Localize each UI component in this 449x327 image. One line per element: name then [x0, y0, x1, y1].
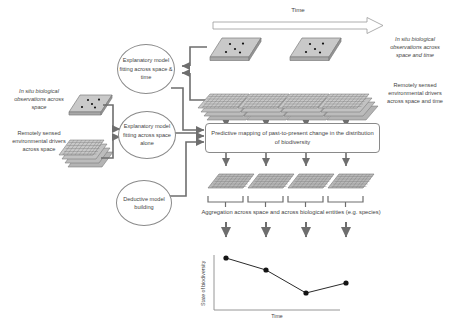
driver-stack-4: [318, 94, 378, 120]
label-remote-drivers-space-time: Remotely sensed environmental drivers ac…: [382, 82, 448, 106]
connector-ellipse-top-to-box: [171, 88, 204, 130]
dot-plate-t1: [210, 38, 261, 61]
predictive-to-output-arrows: [226, 152, 346, 166]
time-axis-arrow: [213, 18, 383, 34]
label-remote-drivers-space: Remotely sensed environmental drivers ac…: [8, 130, 70, 154]
connector-top-bracket: [182, 47, 207, 100]
aggregation-to-chart-arrows: [226, 222, 346, 237]
time-axis-label: Time: [248, 6, 348, 13]
predictive-mapping-label: Predictive mapping of past-to-present ch…: [206, 129, 379, 147]
output-grid-1: [208, 174, 254, 188]
process-label: Deductive model building: [117, 195, 171, 212]
process-explanatory-model-space-time[interactable]: Explanatory model fitting across space &…: [117, 44, 175, 94]
chart-y-axis-label: State of biodiversity: [200, 258, 212, 308]
dot-plate-t2: [290, 38, 341, 61]
process-explanatory-model-space-alone[interactable]: Explanatory model fitting across space a…: [118, 111, 176, 159]
aggregation-braces: [208, 196, 363, 207]
predictive-mapping-box[interactable]: Predictive mapping of past-to-present ch…: [205, 123, 380, 153]
output-grid-4: [328, 174, 374, 188]
biodiversity-trend-chart: [214, 255, 349, 310]
process-label: Explanatory model fitting across space a…: [119, 122, 175, 147]
conceptual-diagram: Time In situ biological observations acr…: [0, 0, 449, 327]
output-grid-3: [288, 174, 334, 188]
chart-x-axis-label: Time: [252, 313, 302, 319]
process-label: Explanatory model fitting across space &…: [118, 56, 174, 81]
connector-ellipse-deductive-to-box: [168, 142, 204, 196]
output-grid-2: [248, 174, 294, 188]
process-deductive-model-building[interactable]: Deductive model building: [116, 180, 172, 226]
connector-ellipse-mid-to-box: [172, 133, 204, 136]
label-in-situ-observations-space: In situ biological observations across s…: [8, 88, 70, 112]
label-in-situ-observations-space-time: In situ biological observations across s…: [382, 36, 448, 60]
aggregation-label: Aggregation across space and across biol…: [196, 209, 386, 215]
